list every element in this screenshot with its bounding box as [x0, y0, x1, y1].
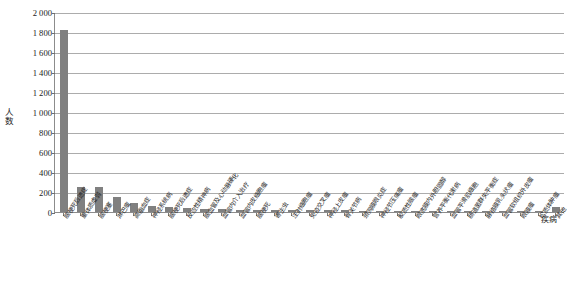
y-axis-ticks: 2 0001 8001 6001 4001 2001 0008006004002… [14, 0, 52, 288]
x-axis-labels: 脑梗死后遗症重体质虚弱脑梗塞淋巴瘤高脂血症神经系统病脑梗死后遗症反应性精神病脑血… [54, 216, 564, 288]
bar-chart: 人数 2 0001 8001 6001 4001 2001 0008006004… [0, 0, 568, 288]
y-tick-label: 1 200 [18, 89, 52, 98]
y-tick-label: 800 [18, 129, 52, 138]
bar [60, 30, 68, 212]
bars-layer [55, 13, 564, 212]
y-tick-label: 1 000 [18, 109, 52, 118]
y-tick-label: 2 000 [18, 9, 52, 18]
y-tick-label: 200 [18, 189, 52, 198]
y-tick-label: 400 [18, 169, 52, 178]
y-tick-label: 600 [18, 149, 52, 158]
y-tick-label: 1 400 [18, 69, 52, 78]
x-axis-title: 疾病 [541, 216, 557, 224]
y-tick-label: 1 800 [18, 29, 52, 38]
y-tick-label: 1 600 [18, 49, 52, 58]
y-tick-label: 0 [18, 209, 52, 218]
